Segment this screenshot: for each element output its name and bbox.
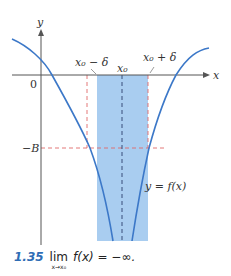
- graph-canvas: y x 0 x₀ − δ x₀ x₀ + δ −B y = f(x): [0, 0, 231, 250]
- limit-operator: lim x→x₀: [50, 251, 68, 270]
- figure-number: 1.35: [14, 250, 44, 264]
- y-axis-arrow-icon: [38, 29, 44, 36]
- curve-label: y = f(x): [144, 180, 186, 193]
- x-axis-arrow-icon: [203, 72, 210, 78]
- left-leader: [91, 69, 96, 74]
- x0-label: x₀: [117, 62, 128, 75]
- x0-plus-delta-label: x₀ + δ: [143, 51, 177, 64]
- figure-caption: 1.35 lim x→x₀ f(x) = −∞.: [14, 250, 135, 270]
- x0-minus-delta-label: x₀ − δ: [75, 56, 109, 69]
- delta-band: [97, 75, 148, 241]
- y-axis-label: y: [36, 16, 44, 29]
- limit-diagram: y x 0 x₀ − δ x₀ x₀ + δ −B y = f(x) 1.35 …: [0, 0, 231, 276]
- x-axis-label: x: [213, 69, 220, 82]
- limit-expression: f(x) = −∞.: [73, 250, 135, 264]
- neg-b-label: −B: [22, 142, 39, 155]
- lim-subscript: x→x₀: [52, 264, 67, 270]
- lim-word: lim: [50, 251, 68, 263]
- right-leader: [150, 67, 154, 73]
- origin-label: 0: [30, 78, 37, 91]
